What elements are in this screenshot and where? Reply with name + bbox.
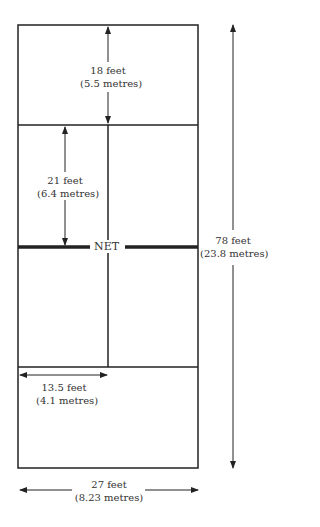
front-service-metres: (6.4 metres) — [37, 187, 93, 200]
half-width-label: 13.5 feet (4.1 metres) — [36, 381, 92, 407]
court-length-metres: (23.8 metres) — [200, 247, 266, 260]
rear-service-feet: 18 feet — [80, 64, 136, 77]
front-service-feet: 21 feet — [37, 174, 93, 187]
front-service-label: 21 feet (6.4 metres) — [37, 174, 93, 200]
net-label: NET — [91, 240, 122, 253]
rear-service-metres: (5.5 metres) — [80, 77, 136, 90]
half-width-metres: (4.1 metres) — [36, 394, 92, 407]
court-length-feet: 78 feet — [200, 234, 266, 247]
rear-service-label: 18 feet (5.5 metres) — [80, 64, 136, 90]
court-length-label: 78 feet (23.8 metres) — [200, 234, 266, 260]
half-width-feet: 13.5 feet — [36, 381, 92, 394]
court-width-metres: (8.23 metres) — [74, 491, 144, 504]
court-width-feet: 27 feet — [74, 478, 144, 491]
court-width-label: 27 feet (8.23 metres) — [74, 478, 144, 504]
